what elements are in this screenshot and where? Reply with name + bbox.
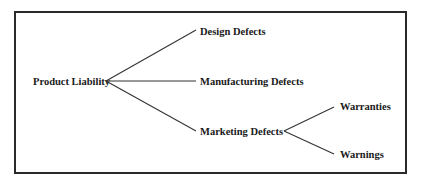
node-warranties: Warranties (340, 101, 391, 112)
node-product-liability: Product Liability (33, 76, 111, 87)
node-warnings: Warnings (340, 149, 384, 160)
node-manufacturing-defects: Manufacturing Defects (200, 76, 304, 87)
node-marketing-defects: Marketing Defects (200, 126, 283, 137)
product-liability-diagram: Product Liability Design Defects Manufac… (0, 0, 421, 186)
node-design-defects: Design Defects (200, 26, 266, 37)
